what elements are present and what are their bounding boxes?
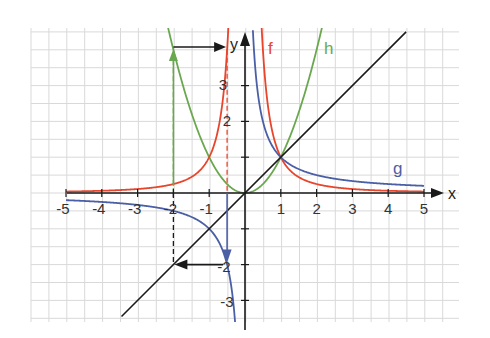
x-tick-label: -5 — [56, 200, 69, 217]
function-label-f: f — [268, 39, 273, 58]
function-graph: -5-4-3-2-112345 3 2 -2 -3 x y f h g — [0, 0, 490, 338]
y-axis — [240, 32, 250, 330]
y-axis-arrow-icon — [240, 32, 250, 46]
arrow-head-up-icon — [169, 49, 178, 61]
x-axis-arrow-icon — [431, 188, 444, 198]
x-tick-label: 4 — [384, 200, 392, 217]
y-tick-label-minus-3: -3 — [220, 293, 233, 310]
function-label-g: g — [393, 159, 402, 178]
y-axis-label: y — [230, 36, 238, 53]
x-tick-label: -4 — [92, 200, 105, 217]
y-tick-label-3: 3 — [219, 76, 227, 93]
function-label-h: h — [324, 39, 333, 58]
x-tick-label: -1 — [200, 200, 213, 217]
x-tick-label: 3 — [348, 200, 356, 217]
curve-f-left — [66, 0, 230, 192]
x-tick-label: -3 — [128, 200, 141, 217]
y-tick-label-minus-2: -2 — [217, 258, 230, 275]
y-tick-label-2: 2 — [223, 112, 231, 129]
x-tick-label: 2 — [312, 200, 320, 217]
x-tick-label: 5 — [420, 200, 428, 217]
arrow-head-right-icon — [214, 42, 226, 52]
x-tick-label: 1 — [277, 200, 285, 217]
x-axis-label: x — [448, 185, 456, 202]
x-tick-label: -2 — [164, 200, 177, 217]
